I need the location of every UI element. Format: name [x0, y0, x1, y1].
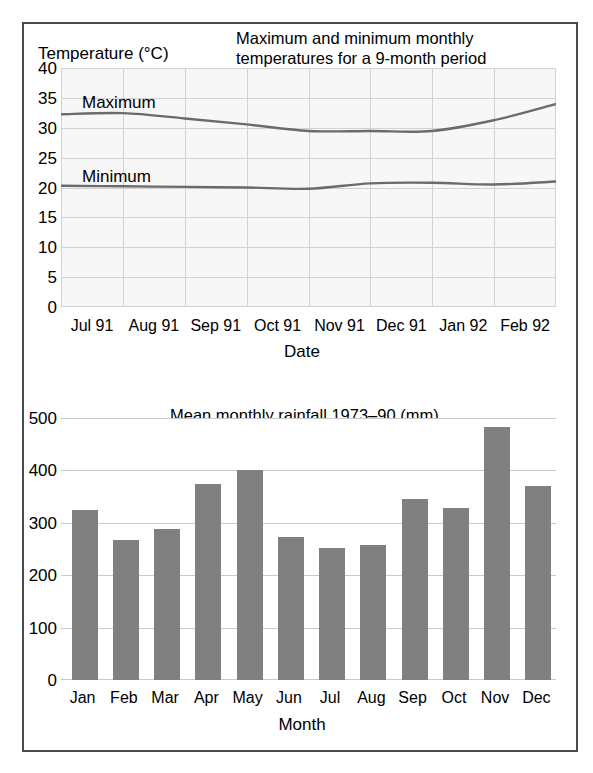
temperature-y-axis-title: Temperature (°C) [38, 44, 169, 63]
gridline-h [61, 418, 556, 419]
temperature-xtick-dec91: Dec 91 [376, 318, 427, 334]
rainfall-xtick-jul: Jul [320, 690, 340, 706]
rainfall-bar [278, 537, 304, 680]
rainfall-ytick-0: 0 [24, 672, 57, 689]
maximum-series-label: Maximum [82, 94, 156, 112]
rainfall-bar [402, 499, 428, 680]
rainfall-bar [525, 486, 551, 680]
rainfall-ytick-400: 400 [24, 462, 57, 479]
temperature-chart: Temperature (°C) Maximum and minimum mon… [24, 24, 580, 379]
page-root: Temperature (°C) Maximum and minimum mon… [0, 0, 593, 773]
temperature-chart-title-line1: Maximum and minimum monthly [236, 28, 486, 48]
temperature-ytick-30: 30 [24, 119, 57, 136]
rainfall-x-axis-title: Month [24, 715, 580, 734]
temperature-ytick-40: 40 [24, 60, 57, 77]
rainfall-bar [195, 484, 221, 681]
rainfall-xtick-apr: Apr [194, 690, 219, 706]
rainfall-bar [237, 470, 263, 680]
temperature-xtick-oct91: Oct 91 [254, 318, 301, 334]
temperature-xtick-sep91: Sep 91 [190, 318, 241, 334]
temperature-xtick-nov91: Nov 91 [314, 318, 365, 334]
rainfall-bar [360, 545, 386, 680]
gridline-h [61, 470, 556, 471]
temperature-ytick-10: 10 [24, 239, 57, 256]
temperature-ytick-35: 35 [24, 89, 57, 106]
temperature-ytick-20: 20 [24, 179, 57, 196]
rainfall-xtick-dec: Dec [522, 690, 550, 706]
gridline-h [61, 523, 556, 524]
rainfall-bar [319, 548, 345, 680]
temperature-chart-title-line2: temperatures for a 9-month period [236, 48, 486, 68]
rainfall-xtick-nov: Nov [481, 690, 509, 706]
temperature-ytick-0: 0 [24, 299, 57, 316]
temperature-xtick-aug91: Aug 91 [129, 318, 180, 334]
rainfall-xtick-jun: Jun [276, 690, 302, 706]
rainfall-xtick-sep: Sep [398, 690, 426, 706]
rainfall-ytick-200: 200 [24, 567, 57, 584]
rainfall-bar [72, 510, 98, 680]
rainfall-chart: Mean monthly rainfall 1973–90 (mm) 500 4… [24, 402, 580, 752]
rainfall-ytick-500: 500 [24, 410, 57, 427]
rainfall-xtick-aug: Aug [357, 690, 385, 706]
temperature-chart-title: Maximum and minimum monthly temperatures… [236, 28, 486, 68]
rainfall-bar [113, 540, 139, 680]
rainfall-ytick-300: 300 [24, 514, 57, 531]
rainfall-ytick-100: 100 [24, 619, 57, 636]
temperature-ytick-15: 15 [24, 209, 57, 226]
rainfall-xtick-oct: Oct [441, 690, 466, 706]
rainfall-bar [443, 508, 469, 680]
rainfall-xtick-feb: Feb [110, 690, 138, 706]
rainfall-plot-area [61, 418, 556, 680]
figure-frame: Temperature (°C) Maximum and minimum mon… [22, 22, 578, 752]
rainfall-xtick-may: May [232, 690, 262, 706]
rainfall-xtick-mar: Mar [151, 690, 179, 706]
temperature-xtick-feb92: Feb 92 [500, 318, 550, 334]
minimum-series-label: Minimum [82, 168, 151, 186]
rainfall-xtick-jan: Jan [70, 690, 96, 706]
temperature-ytick-25: 25 [24, 149, 57, 166]
rainfall-bar [154, 529, 180, 680]
temperature-xtick-jan92: Jan 92 [439, 318, 487, 334]
temperature-ytick-5: 5 [24, 269, 57, 286]
temperature-xtick-jul91: Jul 91 [71, 318, 114, 334]
rainfall-bar [484, 427, 510, 680]
temperature-x-axis-title: Date [24, 342, 580, 361]
